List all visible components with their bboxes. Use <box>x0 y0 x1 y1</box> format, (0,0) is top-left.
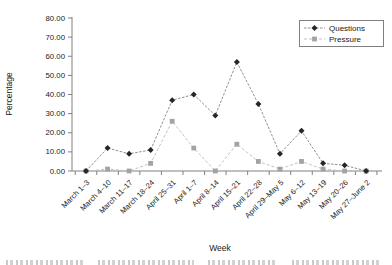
pressure-marker <box>170 119 175 124</box>
questions-marker <box>169 97 175 103</box>
cropped-caption-text <box>6 260 386 265</box>
pressure-marker <box>105 167 110 172</box>
questions-marker <box>342 162 348 168</box>
pressure-marker <box>299 159 304 164</box>
pressure-marker <box>148 161 153 166</box>
y-axis-title: Percentage <box>4 72 14 116</box>
y-tick-label: 80.00 <box>45 14 65 23</box>
pressure-marker <box>213 169 218 174</box>
x-tick-label: May 27–June 2 <box>328 178 371 221</box>
cropped-text-fragment <box>208 260 278 265</box>
legend-label: Questions <box>329 24 365 33</box>
y-tick-label: 10.00 <box>45 147 65 156</box>
y-tick-label: 0.00 <box>50 167 66 176</box>
pressure-marker <box>191 146 196 151</box>
pressure-marker <box>342 169 347 174</box>
y-tick-label: 30.00 <box>45 109 65 118</box>
y-tick-label: 50.00 <box>45 71 65 80</box>
pressure-marker <box>234 142 239 147</box>
cropped-text-fragment <box>6 260 84 265</box>
legend-marker-pressure <box>312 37 317 42</box>
cropped-text-fragment <box>292 260 380 265</box>
pressure-marker <box>127 169 132 174</box>
legend-label: Pressure <box>329 35 362 44</box>
line-chart-figure: 0.0010.0020.0030.0040.0050.0060.0070.008… <box>0 0 392 265</box>
y-tick-label: 40.00 <box>45 90 65 99</box>
pressure-marker <box>278 167 283 172</box>
cropped-text-fragment <box>98 260 194 265</box>
pressure-marker <box>321 167 326 172</box>
questions-marker <box>191 92 197 98</box>
chart-svg: 0.0010.0020.0030.0040.0050.0060.0070.008… <box>0 0 392 265</box>
y-tick-label: 20.00 <box>45 128 65 137</box>
x-axis-title: Week <box>209 243 231 253</box>
questions-marker <box>126 151 132 157</box>
y-tick-label: 70.00 <box>45 33 65 42</box>
questions-marker <box>234 59 240 65</box>
questions-marker <box>255 101 261 107</box>
questions-marker <box>212 113 218 119</box>
y-tick-label: 60.00 <box>45 52 65 61</box>
pressure-marker <box>256 159 261 164</box>
questions-marker <box>148 147 154 153</box>
questions-marker <box>320 160 326 166</box>
